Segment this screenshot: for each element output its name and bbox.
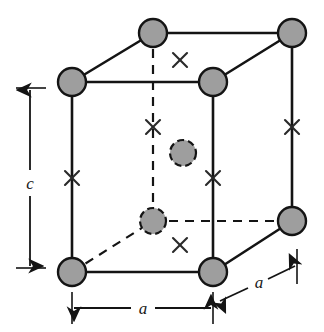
corner-atom-rear-top-left — [139, 19, 167, 47]
corner-atom-rear-bottom-right — [278, 207, 306, 235]
dimension-width-a: a — [72, 292, 213, 324]
dimension-depth-a: a — [220, 249, 297, 301]
corner-atom-front-top-left — [58, 68, 86, 96]
dimension-height-c: c — [16, 88, 46, 268]
corner-atom-front-bottom-left — [58, 258, 86, 286]
crystal-structure-diagram: c a a — [0, 0, 324, 332]
dimension-label-a-horizontal: a — [139, 299, 148, 318]
corner-atom-rear-top-right — [278, 19, 306, 47]
crystal-structure-figure: c a a — [0, 0, 324, 332]
dimension-label-a-diagonal: a — [255, 273, 264, 292]
dimension-label-c: c — [26, 174, 34, 193]
cross-bottom-center-icon — [173, 238, 187, 252]
corner-atom-front-top-right — [199, 68, 227, 96]
corner-atom-front-bottom-right — [199, 258, 227, 286]
interior-atom-upper — [170, 140, 196, 166]
interior-atom-lower — [140, 208, 166, 234]
dimension-a-diagonal-arrow-upper — [268, 266, 295, 279]
dimension-a-diagonal-arrow-lower — [220, 288, 248, 301]
cross-top-center-icon — [173, 53, 187, 67]
